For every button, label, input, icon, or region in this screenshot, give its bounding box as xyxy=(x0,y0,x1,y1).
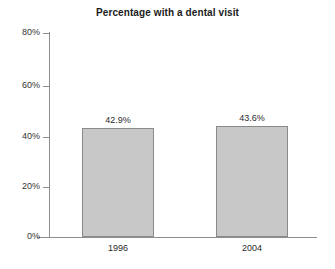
y-tick-label-0: 0% xyxy=(8,232,40,241)
y-tick-mark-0 xyxy=(43,237,49,238)
plot-area: 80% 60% 40% 20% 0% 42.9% 43.6% 1996 2004 xyxy=(0,0,335,269)
y-tick-label-80: 80% xyxy=(8,28,40,37)
y-tick-mark-60 xyxy=(43,86,49,87)
y-axis-line xyxy=(49,32,50,238)
y-tick-mark-80 xyxy=(43,33,49,34)
bar-value-2004: 43.6% xyxy=(216,113,288,123)
bar-chart: Percentage with a dental visit 80% 60% 4… xyxy=(0,0,335,269)
x-tick-label-1996: 1996 xyxy=(82,243,154,253)
bar-1996 xyxy=(82,128,154,237)
bar-2004 xyxy=(216,126,288,237)
y-tick-mark-20 xyxy=(43,187,49,188)
y-tick-label-40: 40% xyxy=(8,132,40,141)
y-tick-mark-40 xyxy=(43,137,49,138)
x-axis-line xyxy=(37,237,317,238)
y-tick-label-20: 20% xyxy=(8,182,40,191)
bar-value-1996: 42.9% xyxy=(82,115,154,125)
y-tick-label-60: 60% xyxy=(8,81,40,90)
x-tick-label-2004: 2004 xyxy=(216,243,288,253)
